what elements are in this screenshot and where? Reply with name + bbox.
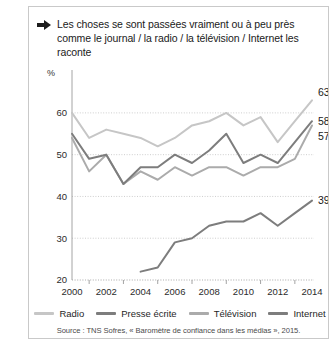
legend-item-internet[interactable]: Internet (268, 308, 325, 319)
legend-swatch-presse-ecrite (96, 312, 116, 315)
x-tick-label-2014: 2014 (301, 286, 322, 297)
gridlines-group (72, 113, 314, 280)
source-note: Source : TNS Sofres, « Baromètre de conf… (29, 326, 328, 335)
x-tick-label-2006: 2006 (164, 286, 185, 297)
series-line-internet (141, 201, 312, 272)
legend-swatch-television (189, 312, 209, 315)
x-tick-label-2000: 2000 (61, 286, 82, 297)
end-labels-group: 63585739 (318, 86, 328, 206)
axis-ticks-group (72, 70, 295, 284)
chart-title-block: Les choses se sont passées vraiment ou à… (37, 17, 325, 59)
end-label-presse-crite: 58 (318, 115, 328, 127)
x-tick-label-2004: 2004 (130, 286, 151, 297)
y-axis-unit-label: % (47, 68, 55, 78)
chart-card: Les choses se sont passées vraiment ou à… (28, 6, 329, 339)
series-lines-group (72, 100, 312, 271)
chart-page: Les choses se sont passées vraiment ou à… (0, 0, 335, 346)
x-tick-labels-group: 20002002200420062008201020122014 (61, 286, 322, 297)
x-tick-label-2012: 2012 (267, 286, 288, 297)
legend-swatch-radio (34, 312, 54, 315)
legend-item-radio[interactable]: Radio (34, 308, 84, 319)
legend-label-television: Télévision (214, 308, 257, 319)
legend-label-presse-ecrite: Presse écrite (121, 308, 176, 319)
y-tick-label-30: 30 (56, 233, 67, 244)
chart-plot-area: 2030405060 20002002200420062008201020122… (29, 62, 328, 302)
page-title: Les choses se sont passées vraiment ou à… (57, 17, 325, 59)
end-label-radio: 63 (318, 86, 328, 98)
y-tick-label-20: 20 (56, 274, 67, 285)
legend-label-radio: Radio (59, 308, 84, 319)
chart-legend: Radio Presse écrite Télévision Internet (39, 308, 321, 319)
y-tick-label-40: 40 (56, 191, 67, 202)
y-tick-labels-group: 2030405060 (56, 107, 67, 285)
y-tick-label-60: 60 (56, 107, 67, 118)
legend-item-television[interactable]: Télévision (189, 308, 257, 319)
legend-item-presse-ecrite[interactable]: Presse écrite (96, 308, 176, 319)
x-tick-label-2002: 2002 (96, 286, 117, 297)
arrow-right-icon (37, 20, 51, 30)
legend-label-internet: Internet (293, 308, 325, 319)
y-tick-label-50: 50 (56, 149, 67, 160)
line-chart-svg: 2030405060 20002002200420062008201020122… (29, 62, 328, 302)
end-label-internet: 39 (318, 194, 328, 206)
x-tick-label-2008: 2008 (199, 286, 220, 297)
end-label-t-l-vision: 57 (318, 130, 328, 142)
series-line-radio (72, 100, 312, 146)
x-tick-label-2010: 2010 (233, 286, 254, 297)
legend-swatch-internet (268, 312, 288, 315)
